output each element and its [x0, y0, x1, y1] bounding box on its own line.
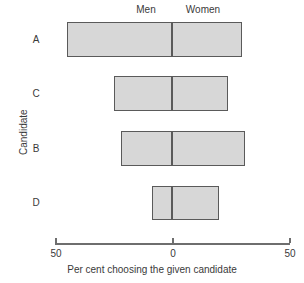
- bar-segment-women-a: [172, 22, 242, 57]
- bar-segment-men-a: [67, 22, 172, 57]
- x-axis-line: [55, 243, 290, 245]
- category-label-c: C: [26, 88, 46, 99]
- x-axis-tick-label-center: 0: [158, 248, 188, 259]
- bar-segment-men-c: [114, 76, 173, 111]
- x-axis-tick-center: [172, 238, 174, 243]
- bar-segment-men-d: [152, 186, 172, 220]
- group-label-women: Women: [180, 4, 226, 15]
- bar-segment-women-b: [172, 131, 245, 166]
- bar-segment-men-b: [121, 131, 172, 166]
- x-axis-title: Per cent choosing the given candidate: [0, 264, 304, 275]
- bar-segment-women-c: [172, 76, 228, 111]
- category-label-d: D: [26, 197, 46, 208]
- chart-container: Men Women Candidate A C B D 50 0 50 Per …: [0, 0, 304, 283]
- x-axis-tick-right: [289, 238, 291, 243]
- category-label-b: B: [26, 143, 46, 154]
- group-label-men: Men: [126, 4, 166, 15]
- x-axis-tick-label-right: 50: [275, 248, 304, 259]
- x-axis-tick-label-left: 50: [41, 248, 71, 259]
- bar-segment-women-d: [172, 186, 219, 220]
- x-axis-tick-left: [55, 238, 57, 243]
- category-label-a: A: [26, 34, 46, 45]
